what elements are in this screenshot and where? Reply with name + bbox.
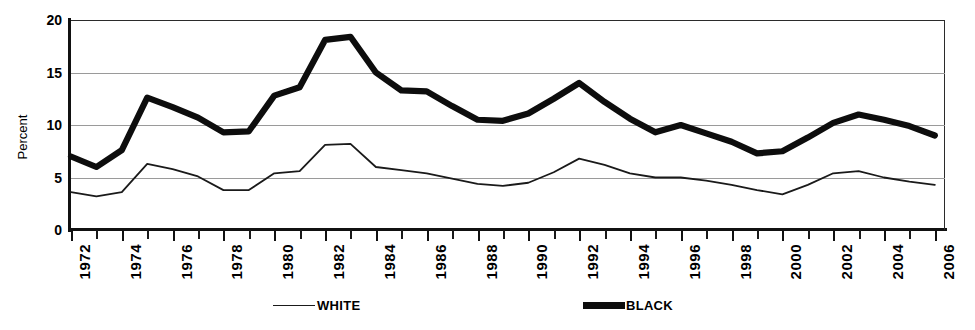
- x-axis-tick-label-1972: 1972: [77, 244, 92, 279]
- x-axis-tick-1987: [452, 230, 454, 239]
- y-axis-tick-label-20: 20: [28, 13, 62, 27]
- x-axis-tick-label-2002: 2002: [839, 244, 854, 279]
- x-axis-tick-1986: [427, 230, 429, 241]
- series-line-white: [71, 144, 935, 197]
- x-axis-tick-label-2006: 2006: [941, 244, 956, 279]
- y-axis-tick-label-15: 15: [28, 66, 62, 80]
- x-axis-tick-label-1986: 1986: [433, 244, 448, 279]
- legend-entry-white: WHITE: [273, 299, 360, 312]
- x-axis-tick-1983: [350, 230, 352, 239]
- x-axis-tick-1996: [681, 230, 683, 241]
- x-axis-tick-label-1974: 1974: [128, 244, 143, 279]
- chart-legend: WHITE BLACK: [0, 297, 975, 321]
- x-axis-tick-label-1994: 1994: [636, 244, 651, 279]
- x-axis-tick-1994: [630, 230, 632, 241]
- x-axis-tick-label-1978: 1978: [229, 244, 244, 279]
- x-axis-tick-1976: [173, 230, 175, 241]
- x-axis-tick-1998: [732, 230, 734, 241]
- x-axis-tick-label-1996: 1996: [687, 244, 702, 279]
- x-axis-tick-1992: [579, 230, 581, 241]
- legend-label-white: WHITE: [317, 299, 360, 312]
- x-axis-tick-1989: [503, 230, 505, 239]
- x-axis-tick-1997: [706, 230, 708, 239]
- x-axis-tick-1999: [757, 230, 759, 239]
- x-axis-tick-1972: [71, 230, 73, 241]
- x-axis-tick-1980: [274, 230, 276, 241]
- y-axis-tick-label-0: 0: [28, 223, 62, 237]
- x-axis-tick-2003: [859, 230, 861, 239]
- x-axis-tick-1991: [554, 230, 556, 239]
- x-axis-tick-1973: [96, 230, 98, 239]
- x-axis-tick-1978: [223, 230, 225, 241]
- x-axis-tick-1975: [147, 230, 149, 239]
- x-axis-tick-label-1976: 1976: [179, 244, 194, 279]
- x-axis-tick-1984: [376, 230, 378, 241]
- data-series-layer: [71, 20, 945, 230]
- thin-line-swatch-icon: [273, 305, 315, 306]
- x-axis-tick-2005: [909, 230, 911, 239]
- chart-figure: Percent 20151050 19721974197619781980198…: [0, 0, 975, 330]
- y-axis-tick-label-5: 5: [28, 171, 62, 185]
- x-axis-tick-label-1998: 1998: [738, 244, 753, 279]
- x-axis-tick-1979: [249, 230, 251, 239]
- x-axis-tick-1981: [300, 230, 302, 239]
- x-axis-tick-2006: [935, 230, 937, 241]
- plot-area: [71, 20, 945, 230]
- thick-line-swatch-icon: [583, 302, 625, 309]
- x-axis-tick-1988: [478, 230, 480, 241]
- x-axis-tick-1985: [401, 230, 403, 239]
- series-line-black: [71, 37, 935, 167]
- x-axis-tick-1982: [325, 230, 327, 241]
- x-axis-tick-label-1988: 1988: [484, 244, 499, 279]
- x-axis-tick-2002: [833, 230, 835, 241]
- x-axis-tick-1993: [605, 230, 607, 239]
- x-axis-tick-label-2000: 2000: [788, 244, 803, 279]
- x-axis-tick-1974: [122, 230, 124, 241]
- x-axis-tick-label-1992: 1992: [585, 244, 600, 279]
- x-axis-tick-2004: [884, 230, 886, 241]
- x-axis-tick-2000: [782, 230, 784, 241]
- x-axis-tick-1977: [198, 230, 200, 239]
- x-axis-tick-label-1982: 1982: [331, 244, 346, 279]
- x-axis-tick-2001: [808, 230, 810, 239]
- x-axis-tick-label-1990: 1990: [534, 244, 549, 279]
- x-axis-tick-label-1980: 1980: [280, 244, 295, 279]
- x-axis-tick-label-1984: 1984: [382, 244, 397, 279]
- y-axis-tick-label-10: 10: [28, 118, 62, 132]
- legend-label-black: BLACK: [626, 299, 673, 312]
- x-axis-tick-1990: [528, 230, 530, 241]
- x-axis-tick-label-2004: 2004: [890, 244, 905, 279]
- x-axis-tick-1995: [655, 230, 657, 239]
- y-axis-title: Percent: [16, 92, 29, 182]
- legend-entry-black: BLACK: [583, 299, 673, 312]
